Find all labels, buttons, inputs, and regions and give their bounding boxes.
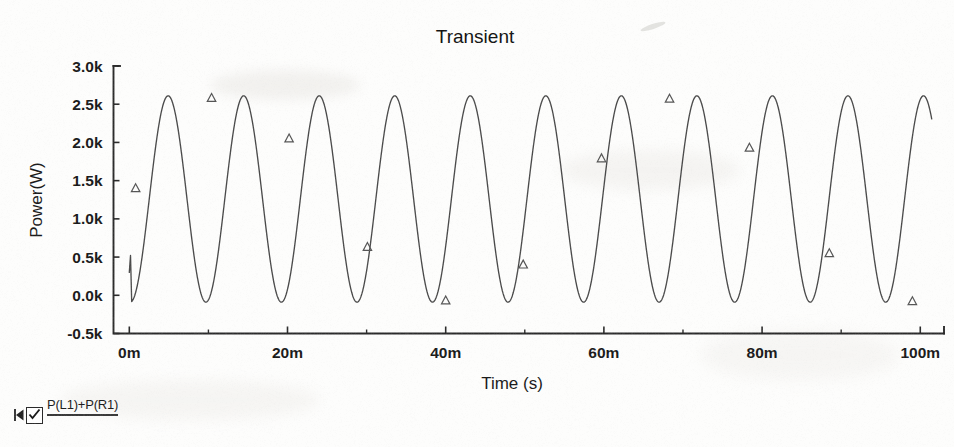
legend-entry[interactable]: P(L1)+P(R1)	[47, 398, 118, 416]
y-tick-label: 0.5k	[72, 249, 103, 266]
legend[interactable]: P(L1)+P(R1)	[14, 398, 118, 438]
x-tick-label: 60m	[588, 344, 619, 361]
drag-handle-icon[interactable]	[14, 407, 25, 423]
checkbox-checked-icon	[28, 408, 41, 421]
x-tick-label: 80m	[747, 344, 778, 361]
waveform-markers	[131, 94, 916, 305]
data-point-marker	[131, 184, 140, 192]
legend-checkbox[interactable]	[26, 407, 43, 424]
data-point-marker	[745, 143, 754, 151]
x-axis-tick-labels: 0m20m40m60m80m100m	[118, 344, 940, 361]
x-axis-ticks	[129, 327, 920, 334]
data-point-marker	[207, 94, 216, 102]
data-point-marker	[519, 260, 527, 268]
y-axis-title: Power(W)	[27, 162, 46, 238]
chart-container: Transient Power(W) Time (s) 3.0k2.5k2.0k…	[0, 0, 954, 447]
legend-label: P(L1)+P(R1)	[47, 398, 118, 412]
x-tick-label: 100m	[900, 344, 940, 361]
data-point-marker	[285, 134, 293, 142]
data-point-marker	[665, 94, 674, 102]
chart-title: Transient	[436, 26, 515, 47]
y-tick-label: 0.0k	[72, 287, 103, 304]
x-tick-label: 20m	[272, 344, 303, 361]
legend-color-rule	[47, 414, 118, 416]
data-point-marker	[597, 154, 605, 162]
y-axis-tick-labels: 3.0k2.5k2.0k1.5k1.0k0.5k0.0k-0.5k	[67, 58, 103, 343]
y-tick-label: 3.0k	[72, 58, 103, 75]
y-tick-label: -0.5k	[67, 325, 103, 342]
transient-plot: Transient Power(W) Time (s) 3.0k2.5k2.0k…	[0, 0, 954, 447]
data-point-marker	[442, 296, 450, 304]
y-tick-label: 1.5k	[72, 172, 103, 189]
x-axis-title: Time (s)	[481, 374, 543, 393]
data-point-marker	[908, 297, 917, 305]
y-tick-label: 2.5k	[72, 96, 103, 113]
data-point-marker	[825, 249, 833, 257]
x-tick-label: 0m	[118, 344, 140, 361]
y-tick-label: 2.0k	[72, 134, 103, 151]
x-tick-label: 40m	[430, 344, 461, 361]
waveform-trace	[129, 96, 931, 302]
y-tick-label: 1.0k	[72, 210, 103, 227]
